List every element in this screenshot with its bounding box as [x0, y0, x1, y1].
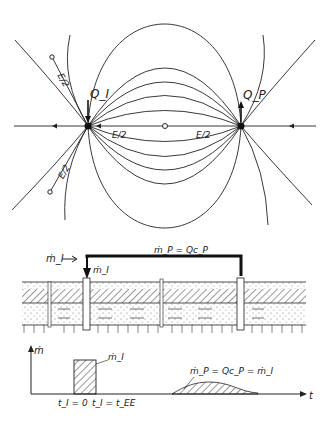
injection-pulse: [74, 360, 96, 394]
production-well-label: Q_P: [243, 88, 266, 102]
response-label: ṁ_P = Qc_P = ṁ_I: [190, 366, 273, 376]
midpoint-circle: [163, 124, 168, 129]
half-spacing-label-4: E/2: [56, 163, 72, 181]
pulse-label: ṁ_I: [108, 352, 124, 362]
production-well-dot: [238, 123, 245, 130]
y-axis-label: ṁ: [34, 345, 44, 356]
tick-start-label: t_I = 0: [58, 398, 88, 408]
injection-well-label: Q_I: [90, 87, 109, 101]
injected-arrow-label: ṁ_I: [93, 265, 109, 275]
tick-end-label: t_I = t_EE: [92, 398, 136, 408]
half-spacing-label-2: E/2: [196, 130, 211, 140]
half-spacing-label-1: E/2: [112, 130, 127, 140]
pipe-label: ṁ_P = Qc_P: [154, 245, 208, 255]
cross-section: [22, 256, 306, 333]
injected-rate-label: ṁ_I: [46, 253, 64, 265]
injection-well-dot: [85, 123, 92, 130]
diagram-canvas: Q_I Q_P E/2 E/2 E/2 E/2: [0, 0, 328, 421]
x-axis-label: t: [309, 390, 314, 401]
